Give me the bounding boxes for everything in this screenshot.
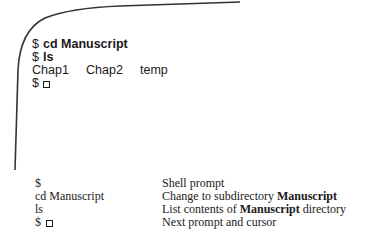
file-entry: temp	[140, 64, 194, 77]
file-entry: Chap1	[32, 64, 86, 77]
legend-description: Next prompt and cursor	[162, 216, 276, 229]
terminal-line-next-prompt: $	[32, 77, 194, 90]
legend-desc-text: Change to subdirectory	[162, 189, 277, 203]
cursor-icon	[46, 220, 53, 227]
cursor-icon	[43, 81, 50, 88]
legend-desc-bold: Manuscript	[277, 189, 337, 203]
shell-prompt: $	[32, 77, 39, 90]
ls-output: Chap1 Chap2 temp	[32, 64, 194, 77]
terminal-line-cd: $ cd Manuscript	[32, 38, 194, 51]
file-entry: Chap2	[86, 64, 140, 77]
terminal-screen: $ cd Manuscript $ ls Chap1 Chap2 temp $	[32, 38, 194, 90]
command-text: cd Manuscript	[43, 38, 128, 51]
legend-term: $	[35, 216, 162, 229]
legend-term: ls	[35, 203, 162, 216]
legend-term-text: cd Manuscript	[35, 190, 104, 203]
legend-desc-bold: Manuscript	[240, 202, 300, 216]
legend-desc-text: directory	[300, 202, 346, 216]
legend-row: $ Next prompt and cursor	[35, 216, 346, 229]
legend-desc-text: List contents of	[162, 202, 240, 216]
legend-desc-text: Shell prompt	[162, 176, 224, 190]
legend-table: $ Shell prompt cd Manuscript Change to s…	[35, 177, 346, 229]
legend-desc-text: Next prompt and cursor	[162, 215, 276, 229]
legend-term-text: $	[35, 216, 41, 229]
legend-term: cd Manuscript	[35, 190, 162, 203]
